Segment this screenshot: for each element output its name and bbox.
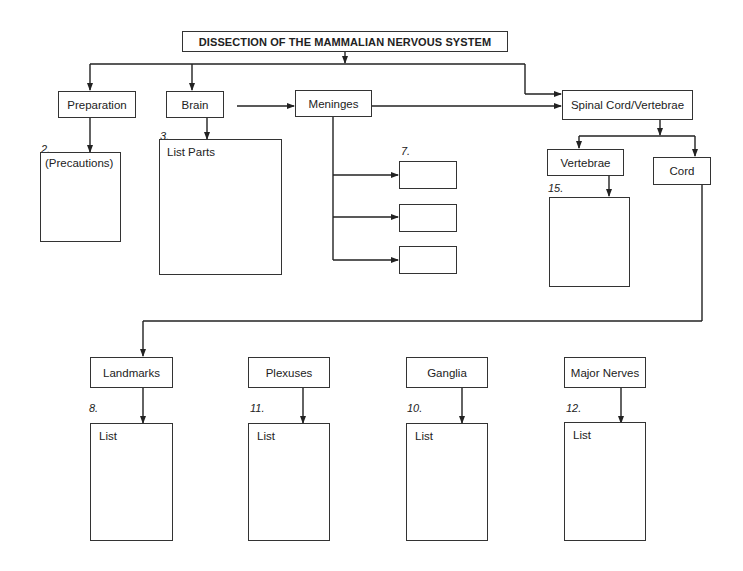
- diagram-title-text: DISSECTION OF THE MAMMALIAN NERVOUS SYST…: [199, 36, 491, 48]
- meninges-layer-box-2[interactable]: [399, 204, 457, 232]
- ganglia-number: 10.: [407, 402, 422, 414]
- node-cord-label: Cord: [670, 165, 695, 177]
- node-ganglia: Ganglia: [406, 357, 488, 388]
- node-preparation-label: Preparation: [67, 99, 126, 111]
- node-major-nerves: Major Nerves: [564, 357, 646, 388]
- node-brain-label: Brain: [182, 99, 209, 111]
- brain-parts-label: List Parts: [167, 146, 215, 158]
- plexuses-list-label: List: [257, 430, 275, 442]
- node-preparation: Preparation: [58, 91, 136, 118]
- node-plexuses-label: Plexuses: [266, 367, 313, 379]
- node-major-nerves-label: Major Nerves: [571, 367, 639, 379]
- meninges-layer-box-1[interactable]: [399, 161, 457, 189]
- vertebrae-box[interactable]: [549, 197, 630, 287]
- node-landmarks-label: Landmarks: [103, 367, 160, 379]
- node-spinal-label: Spinal Cord/Vertebrae: [571, 99, 684, 111]
- landmarks-list-label: List: [99, 430, 117, 442]
- plexuses-number: 11.: [250, 402, 264, 414]
- major-nerves-number: 12.: [566, 402, 581, 414]
- node-meninges: Meninges: [295, 90, 372, 117]
- brain-parts-box[interactable]: List Parts: [159, 139, 282, 275]
- diagram-title: DISSECTION OF THE MAMMALIAN NERVOUS SYST…: [182, 31, 508, 52]
- landmarks-number: 8.: [89, 402, 98, 414]
- ganglia-list-box[interactable]: List: [406, 423, 488, 541]
- node-spinal-cord-vertebrae: Spinal Cord/Vertebrae: [562, 90, 693, 120]
- major-nerves-list-box[interactable]: List: [564, 422, 646, 541]
- node-plexuses: Plexuses: [248, 357, 330, 388]
- node-cord: Cord: [653, 157, 711, 185]
- ganglia-list-label: List: [415, 430, 433, 442]
- node-meninges-label: Meninges: [309, 98, 359, 110]
- precautions-label: (Precautions): [45, 157, 113, 169]
- precautions-box[interactable]: (Precautions): [40, 152, 121, 242]
- landmarks-list-box[interactable]: List: [90, 423, 173, 541]
- node-vertebrae: Vertebrae: [547, 149, 624, 176]
- node-brain: Brain: [166, 91, 224, 118]
- node-vertebrae-label: Vertebrae: [561, 157, 611, 169]
- vertebrae-number: 15.: [548, 182, 563, 194]
- node-ganglia-label: Ganglia: [427, 367, 467, 379]
- meninges-layer-box-3[interactable]: [399, 246, 457, 274]
- major-nerves-list-label: List: [573, 429, 591, 441]
- node-landmarks: Landmarks: [90, 357, 173, 388]
- meninges-number: 7.: [401, 145, 410, 157]
- plexuses-list-box[interactable]: List: [248, 423, 330, 541]
